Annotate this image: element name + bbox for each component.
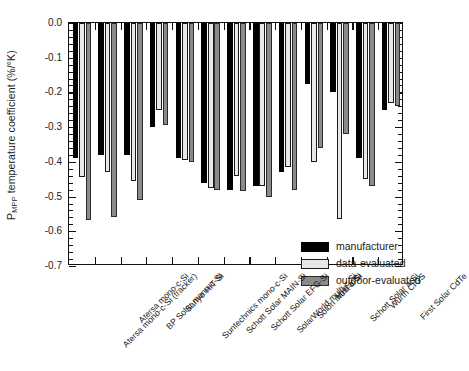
x-axis-major-tick-top (301, 23, 302, 30)
x-axis-major-tick (249, 257, 250, 264)
x-axis-category-label: Sanyo HIT-Si (183, 271, 226, 314)
y-axis-tick-label: -0.2 (26, 86, 62, 97)
y-axis-minor-tick (69, 238, 73, 239)
bar-data (388, 23, 394, 103)
bar-manufacturer (382, 23, 388, 110)
x-axis-category-label: Atersa mono-c-Si (tracker) (120, 271, 198, 349)
bar-outdoor (137, 23, 143, 200)
x-axis-major-tick-top (275, 23, 276, 30)
bar-data (131, 23, 137, 181)
y-axis-major-tick-right (395, 231, 402, 232)
y-axis-tick-label: -0.7 (26, 260, 62, 271)
y-axis-tick-label: -0.1 (26, 51, 62, 62)
legend-swatch-outdoor (301, 276, 329, 286)
bar-manufacturer (227, 23, 233, 190)
y-axis-minor-tick-right (398, 224, 402, 225)
chart-legend: manufacturerdata-evaluatedoutdoor-evalua… (301, 239, 421, 290)
bar-manufacturer (201, 23, 207, 183)
y-axis-minor-tick (69, 224, 73, 225)
bar-outdoor (111, 23, 117, 217)
bar-outdoor (86, 23, 92, 220)
y-axis-title: PMPP temperature coefficient (%/°K) (0, 0, 24, 270)
legend-label: outdoor-evaluated (336, 275, 421, 286)
legend-item-manufacturer: manufacturer (301, 239, 421, 254)
x-axis-major-tick (172, 257, 173, 264)
bar-data (259, 23, 265, 186)
y-axis-major-tick-right (395, 127, 402, 128)
x-axis-category-label: Atersa mono-c-Si (136, 271, 190, 325)
bar-manufacturer (305, 23, 311, 84)
y-axis-title-main: temperature coefficient (%/°K) (5, 50, 17, 193)
x-axis-major-tick-top (121, 23, 122, 30)
y-axis-tick-label: 0.0 (26, 17, 62, 28)
bar-outdoor (266, 23, 272, 197)
bar-manufacturer (98, 23, 104, 155)
y-axis-minor-tick (69, 245, 73, 246)
bar-data (337, 23, 343, 219)
legend-swatch-data (301, 259, 329, 269)
y-axis-major-tick (69, 266, 76, 267)
bar-manufacturer (124, 23, 130, 155)
y-axis-major-tick-right (395, 197, 402, 198)
bar-manufacturer (176, 23, 182, 158)
y-axis-minor-tick (69, 204, 73, 205)
x-axis-major-tick-top (249, 23, 250, 30)
bar-data (208, 23, 214, 188)
x-axis-major-tick-top (352, 23, 353, 30)
y-axis-minor-tick-right (398, 169, 402, 170)
y-axis-minor-tick (69, 217, 73, 218)
bar-manufacturer (150, 23, 156, 127)
x-axis-category-label: First Solar CdTe (418, 271, 469, 322)
bar-data (311, 23, 317, 162)
y-axis-major-tick-right (395, 162, 402, 163)
y-axis-tick-label: -0.6 (26, 225, 62, 236)
x-axis-category-label: Schott Solar MAIN-Si (243, 271, 307, 335)
legend-item-data: data-evaluated (301, 256, 421, 271)
legend-swatch-manufacturer (301, 242, 329, 252)
x-axis-major-tick-top (172, 23, 173, 30)
bar-manufacturer (330, 23, 336, 92)
bar-data (156, 23, 162, 110)
x-axis-major-tick-top (224, 23, 225, 30)
bar-data (363, 23, 369, 179)
y-axis-tick-label: -0.3 (26, 121, 62, 132)
bar-manufacturer (73, 23, 79, 158)
x-axis-major-tick-top (146, 23, 147, 30)
x-axis-major-tick (121, 257, 122, 264)
bar-outdoor (318, 23, 324, 148)
x-axis-major-tick-top (95, 23, 96, 30)
y-axis-minor-tick-right (398, 141, 402, 142)
bar-manufacturer (356, 23, 362, 158)
bar-outdoor (292, 23, 298, 190)
y-axis-minor-tick-right (398, 190, 402, 191)
x-axis-category-label: BP Solar mono-c-Si (164, 271, 224, 331)
bar-data (182, 23, 188, 160)
x-axis-major-tick-top (198, 23, 199, 30)
y-axis-minor-tick-right (398, 148, 402, 149)
x-axis-major-tick-top (378, 23, 379, 30)
y-axis-minor-tick-right (398, 176, 402, 177)
y-axis-major-tick (69, 231, 76, 232)
x-axis-major-tick (224, 257, 225, 264)
bar-outdoor (395, 23, 401, 106)
x-axis-category-label: Suntechnics mono-c-Si (220, 271, 290, 341)
y-axis-major-tick (69, 197, 76, 198)
x-axis-major-tick (275, 257, 276, 264)
y-axis-minor-tick (69, 176, 73, 177)
bar-outdoor (189, 23, 195, 162)
y-axis-minor-tick-right (398, 106, 402, 107)
y-axis-major-tick (69, 162, 76, 163)
y-axis-minor-tick (69, 169, 73, 170)
y-axis-tick-label: -0.4 (26, 155, 62, 166)
legend-label: manufacturer (336, 241, 398, 252)
y-axis-minor-tick-right (398, 210, 402, 211)
x-axis-major-tick (146, 257, 147, 264)
bar-outdoor (214, 23, 220, 190)
bar-outdoor (163, 23, 169, 125)
y-axis-tick-label: -0.5 (26, 190, 62, 201)
y-axis-minor-tick-right (398, 134, 402, 135)
y-axis-minor-tick (69, 259, 73, 260)
bar-data (79, 23, 85, 177)
y-axis-title-prefix: P (5, 213, 17, 220)
